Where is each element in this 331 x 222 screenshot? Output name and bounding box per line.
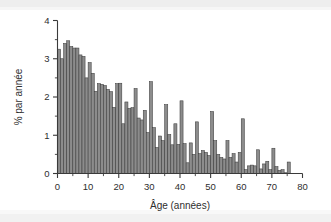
histogram-bar [247, 166, 250, 174]
histogram-bar [211, 112, 214, 174]
histogram-bar [70, 47, 73, 174]
histogram-bar [281, 170, 284, 174]
histogram-bar [103, 86, 106, 174]
histogram-bar [260, 169, 263, 174]
histogram-bar [263, 164, 266, 174]
histogram-bar [162, 141, 165, 174]
histogram-bar [67, 41, 70, 174]
histogram-bar [180, 101, 183, 174]
histogram-bar [88, 63, 91, 174]
histogram-bar [177, 144, 180, 173]
histogram-bar [149, 82, 152, 174]
histogram-bar [201, 151, 204, 174]
histogram-bar [266, 161, 269, 173]
x-tick-label: 0 [55, 181, 60, 192]
histogram-bar [272, 148, 275, 173]
histogram-bar [198, 154, 201, 174]
histogram-bar [125, 102, 128, 174]
histogram-bar [269, 170, 272, 174]
histogram-bar [137, 118, 140, 173]
histogram-bar [195, 122, 198, 174]
histogram-bar [186, 163, 189, 174]
histogram-bar [152, 128, 155, 174]
histogram-bar [131, 108, 134, 174]
histogram-bar [61, 59, 64, 174]
screenshot-root: 01234 01020304050607080 Âge (années) % p… [0, 0, 331, 222]
histogram-bar [250, 165, 253, 173]
x-axis: 01020304050607080 [55, 174, 308, 192]
y-tick-label: 4 [44, 15, 49, 26]
histogram-bar [235, 162, 238, 173]
histogram-svg: 01234 01020304050607080 Âge (années) % p… [0, 0, 331, 222]
histogram-bar [229, 157, 232, 173]
y-tick-label: 2 [44, 91, 49, 102]
x-tick-label: 60 [236, 181, 247, 192]
histogram-bar [232, 154, 235, 174]
histogram-bar [156, 147, 159, 173]
x-axis-title: Âge (années) [150, 199, 210, 211]
y-axis: 01234 [44, 15, 57, 179]
histogram-bar [220, 157, 223, 173]
histogram-bar [91, 73, 94, 173]
histogram-bar [110, 92, 113, 174]
histogram-bar [244, 170, 247, 174]
histogram-bar [205, 152, 208, 173]
histogram-bar [116, 84, 119, 174]
histogram-bar [217, 154, 220, 173]
histogram-bar [76, 48, 79, 173]
histogram-bar [189, 143, 192, 174]
histogram-bar [159, 136, 162, 173]
histogram-bar [82, 56, 85, 173]
x-tick-label: 50 [205, 181, 216, 192]
histogram-bar [192, 154, 195, 173]
y-tick-label: 3 [44, 53, 49, 64]
x-tick-label: 20 [113, 181, 124, 192]
histogram-bar [183, 144, 186, 174]
histogram-bar [208, 156, 211, 174]
histogram-bar [171, 145, 174, 174]
histogram-bar [146, 133, 149, 174]
histogram-bar [140, 120, 143, 174]
histogram-bar [122, 124, 125, 174]
histogram-bar [64, 43, 67, 173]
histogram-bar [113, 107, 116, 173]
histogram-bar [214, 141, 217, 174]
histogram-figure: 01234 01020304050607080 Âge (années) % p… [0, 0, 331, 222]
x-tick-label: 70 [267, 181, 278, 192]
histogram-bar [128, 108, 131, 173]
histogram-bar [119, 83, 122, 173]
histogram-bar [107, 89, 110, 173]
histogram-bar [100, 84, 103, 173]
histogram-bar [79, 55, 82, 174]
histogram-bar [143, 110, 146, 173]
histogram-bar [94, 91, 97, 173]
x-tick-label: 30 [144, 181, 155, 192]
x-tick-label: 40 [175, 181, 186, 192]
histogram-bar [97, 84, 100, 174]
histogram-bar [73, 48, 76, 173]
histogram-bar [168, 134, 171, 173]
histogram-bar [85, 78, 88, 174]
histogram-bar [257, 150, 260, 174]
histogram-bar [287, 162, 290, 173]
x-tick-label: 80 [297, 181, 308, 192]
y-tick-label: 0 [44, 168, 49, 179]
histogram-bar [254, 166, 257, 174]
x-tick-label: 10 [83, 181, 94, 192]
histogram-bar [241, 119, 244, 174]
y-axis-title: % par année [13, 68, 24, 125]
histogram-bar [275, 167, 278, 174]
y-tick-label: 1 [44, 130, 49, 141]
histogram-bar [134, 89, 137, 174]
bars-group [58, 41, 291, 174]
histogram-bar [174, 124, 177, 174]
histogram-bar [238, 152, 241, 173]
histogram-bar [226, 141, 229, 174]
histogram-bar [165, 105, 168, 174]
histogram-bar [223, 159, 226, 174]
